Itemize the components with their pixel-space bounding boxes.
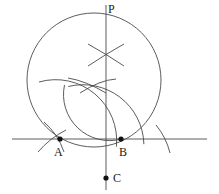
- geometry-canvas: [0, 0, 219, 194]
- point-c-marker: [103, 175, 108, 180]
- point-label-a: A: [54, 146, 63, 158]
- arc-from-A-group: [39, 80, 117, 147]
- arc-from-A: [39, 80, 117, 147]
- point-a-marker: [57, 136, 62, 141]
- geometry-figure: P A B C: [0, 0, 219, 194]
- point-b-marker: [118, 136, 123, 141]
- arc-lower-left: [63, 85, 121, 141]
- point-label-p: P: [108, 3, 115, 15]
- arc-lower-left-group: [63, 85, 121, 141]
- point-label-b: B: [119, 146, 127, 158]
- point-label-c: C: [113, 172, 121, 184]
